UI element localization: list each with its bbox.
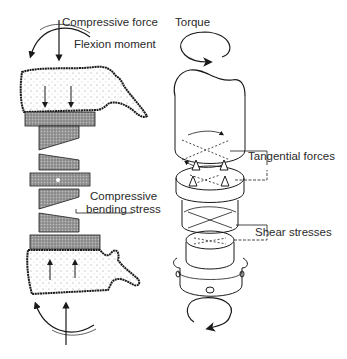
compressive-bending-stress-label-line2: bending stress [86,203,161,216]
torque-label: Torque [175,16,210,29]
flexion-moment-label: Flexion moment [74,38,156,51]
compressive-force-label: Compressive force [62,16,158,29]
compressive-bending-stress-label-line1: Compressive [90,190,157,203]
biomechanics-diagram [0,0,347,359]
shear-stresses-label: Shear stresses [255,226,332,239]
upper-vertebra [21,67,147,117]
flexion-moment-arrow-bottom [36,305,94,332]
torque-arrow-top [181,32,230,62]
lower-vertebra [27,250,139,294]
torque-arrow-bottom [187,298,231,328]
spine-segment [21,20,147,345]
tangential-forces-label: Tangential forces [248,150,335,163]
torsion-model [174,32,267,328]
